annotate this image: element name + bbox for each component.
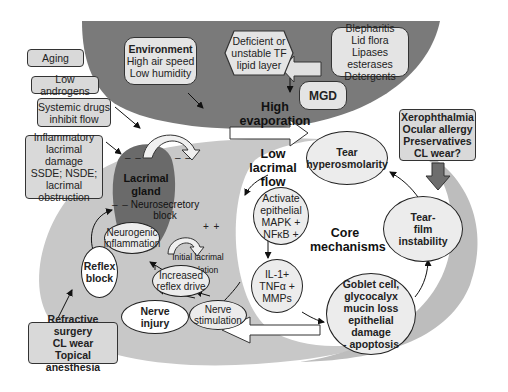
nerve-stimulation-line: stimulation bbox=[194, 315, 242, 326]
goblet-cell-ellipse: Goblet cell, glycocalyx mucin loss epith… bbox=[326, 273, 416, 355]
core-mechanisms-line: Core bbox=[310, 226, 380, 240]
nerve-stimulation-line: Nerve bbox=[205, 304, 232, 315]
blepharitis-line: Blepharitis bbox=[345, 22, 394, 34]
cytokines-line: IL-1+ bbox=[265, 268, 289, 280]
cytokines-line: TNFα + bbox=[259, 280, 295, 292]
reflex-block-line: Reflex bbox=[84, 260, 116, 272]
increased-reflex-line: Increased bbox=[159, 270, 203, 281]
environment-box: Environment High air speed Low humidity bbox=[124, 37, 197, 85]
goblet-cell-line: mucin loss bbox=[344, 302, 399, 314]
tf-lipid-line: lipid layer bbox=[237, 59, 281, 71]
lacrimal-gland-label: Lacrimal gland bbox=[118, 172, 174, 198]
increased-reflex-line: reflex drive bbox=[157, 281, 206, 292]
high-evaporation-line: High bbox=[230, 100, 320, 114]
tear-hyperosmolarity-ellipse: Tear hyperosmolarity bbox=[306, 131, 388, 185]
goblet-cell-line: - apoptosis bbox=[343, 338, 399, 350]
systemic-drugs-box: Systemic drugs inhibit flow bbox=[37, 98, 111, 127]
high-evaporation-line: evaporation bbox=[230, 114, 320, 128]
tf-lipid-line: unstable TF bbox=[231, 47, 286, 59]
low-lacrimal-flow-line: flow bbox=[238, 175, 308, 189]
reflex-block-line: block bbox=[86, 272, 113, 284]
tear-film-instability-ellipse: Tear- film instability bbox=[383, 196, 463, 262]
reflex-block-ellipse: Reflex block bbox=[81, 246, 118, 298]
minus-signs-neuro: – – bbox=[112, 199, 129, 210]
blepharitis-box: Blepharitis Lid flora Lipases esterases … bbox=[331, 27, 409, 77]
cytokines-ellipse: IL-1+ TNFα + MMPs bbox=[251, 259, 303, 313]
goblet-cell-line: Goblet cell, bbox=[343, 278, 400, 290]
refractive-line: Topical anesthesia bbox=[29, 349, 117, 373]
goblet-cell-line: epithelial damage bbox=[327, 314, 415, 338]
environment-line: High air speed bbox=[127, 55, 195, 67]
xerophthalmia-line: CL wear? bbox=[414, 147, 461, 159]
inflammatory-line: obstruction bbox=[38, 191, 89, 203]
neurosecretory-line: Neurosecretory bbox=[130, 199, 200, 210]
activate-epithelial-ellipse: Activate epithelial MAPK + NFκB + bbox=[253, 187, 309, 245]
tear-film-line: film bbox=[414, 223, 433, 235]
activate-epithelial-line: NFκB + bbox=[263, 228, 298, 240]
tear-film-line: Tear- bbox=[411, 211, 436, 223]
nerve-injury-line: injury bbox=[141, 317, 170, 329]
xerophthalmia-line: Ocular allergy bbox=[402, 123, 472, 135]
lacrimal-gland-line: Lacrimal bbox=[118, 172, 174, 185]
minus-signs-flow: – – bbox=[175, 152, 192, 163]
inflammatory-line: Inflammatory bbox=[34, 131, 95, 143]
core-mechanisms-label: Core mechanisms bbox=[310, 226, 380, 254]
goblet-cell-line: glycocalyx bbox=[344, 290, 398, 302]
tear-hyperosmolarity-line: hyperosmolarity bbox=[306, 158, 388, 170]
tf-lipid-hexagon: Deficient or unstable TF lipid layer bbox=[224, 30, 294, 76]
blepharitis-line: Lid flora bbox=[351, 34, 388, 46]
low-androgens-box: Low androgens bbox=[31, 76, 99, 94]
low-androgens-label: Low androgens bbox=[32, 73, 98, 97]
aging-box: Aging bbox=[27, 49, 84, 67]
activate-epithelial-line: Activate bbox=[262, 192, 299, 204]
inflammatory-line: lacrimal bbox=[46, 179, 82, 191]
xerophthalmia-line: Preservatives bbox=[403, 135, 471, 147]
increased-reflex-drive-ellipse: Increased reflex drive bbox=[152, 265, 210, 297]
high-evaporation-label: High evaporation bbox=[230, 100, 320, 128]
activate-epithelial-line: MAPK + bbox=[262, 216, 301, 228]
environment-line: Low humidity bbox=[130, 67, 191, 79]
activate-epithelial-line: epithelial bbox=[260, 204, 301, 216]
core-mechanisms-line: mechanisms bbox=[310, 240, 380, 254]
aging-label: Aging bbox=[42, 52, 69, 64]
low-lacrimal-flow-line: Low bbox=[238, 147, 308, 161]
neurogenic-line: inflammation bbox=[104, 238, 161, 249]
refractive-surgery-box: Refractive surgery CL wear Topical anest… bbox=[28, 322, 118, 364]
neurosecretory-block-label: Neurosecretory block bbox=[130, 199, 200, 221]
nerve-injury-ellipse: Nerve injury bbox=[121, 300, 189, 334]
refractive-line: Refractive surgery bbox=[29, 313, 117, 337]
neurogenic-line: Neurogenic bbox=[106, 227, 157, 238]
nerve-injury-line: Nerve bbox=[140, 305, 169, 317]
xerophthalmia-line: Xerophthalmia bbox=[401, 111, 474, 123]
nerve-stimulation-ellipse: Nerve stimulation bbox=[189, 300, 247, 330]
refractive-line: CL wear bbox=[53, 337, 94, 349]
lacrimal-gland-line: gland bbox=[118, 185, 174, 198]
inflammatory-line: SSDE; NSDE; bbox=[31, 167, 98, 179]
inflammatory-line: lacrimal damage bbox=[26, 143, 102, 167]
tear-hyperosmolarity-line: Tear bbox=[336, 146, 357, 158]
blepharitis-line: Detergents bbox=[344, 70, 395, 82]
tf-lipid-line: Deficient or bbox=[232, 35, 285, 47]
neurogenic-inflammation-ellipse: Neurogenic inflammation bbox=[104, 222, 160, 254]
xerophthalmia-box: Xerophthalmia Ocular allergy Preservativ… bbox=[399, 109, 476, 161]
environment-title: Environment bbox=[128, 43, 192, 55]
tear-film-line: instability bbox=[398, 235, 447, 247]
blepharitis-line: Lipases esterases bbox=[332, 46, 408, 70]
low-lacrimal-flow-label: Low lacrimal flow bbox=[238, 147, 308, 189]
systemic-drugs-line: inhibit flow bbox=[49, 113, 98, 125]
minus-signs-gland: – – bbox=[125, 152, 142, 163]
inflammatory-box: Inflammatory lacrimal damage SSDE; NSDE;… bbox=[25, 135, 103, 199]
low-lacrimal-flow-line: lacrimal bbox=[238, 161, 308, 175]
plus-signs: + + bbox=[203, 221, 220, 232]
systemic-drugs-line: Systemic drugs bbox=[38, 101, 110, 113]
neurosecretory-line: block bbox=[130, 210, 200, 221]
cytokines-line: MMPs bbox=[262, 292, 292, 304]
